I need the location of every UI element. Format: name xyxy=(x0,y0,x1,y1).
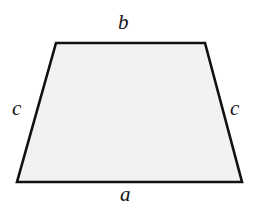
trapezoid-shape xyxy=(17,43,242,182)
label-side-a: a xyxy=(120,184,131,205)
label-side-c-right: c xyxy=(230,98,239,119)
label-side-c-left: c xyxy=(12,98,21,119)
label-side-b: b xyxy=(118,12,129,33)
trapezoid-figure: b a c c xyxy=(0,0,257,208)
trapezoid-canvas xyxy=(0,0,257,208)
